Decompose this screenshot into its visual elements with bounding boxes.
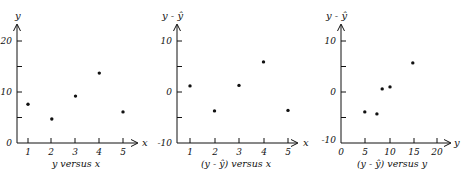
data-points	[363, 61, 414, 115]
data-point	[74, 94, 77, 97]
y-tick-label: 0	[166, 87, 172, 97]
y-axis	[14, 24, 23, 143]
data-point	[286, 109, 289, 112]
x-tick-label: 5	[362, 147, 368, 157]
figure-residual-plots: y x 20 10 0 1 2 3 4 5 y versus x	[0, 0, 465, 177]
y-tick-label: -10	[158, 138, 173, 148]
panel-residual-versus-x: y - ŷ x 10 0 -10 1 2 3 4 5 (y - ŷ) versu…	[158, 10, 310, 169]
y-tick-label: 10	[161, 36, 173, 46]
x-tick-label: 2	[47, 147, 54, 157]
y-tick-label: 0	[6, 138, 12, 148]
y-axis	[174, 24, 183, 143]
data-point	[411, 61, 414, 64]
x-tick-label: 0	[338, 147, 344, 157]
data-point	[262, 60, 265, 63]
y-tick-label: 20	[0, 36, 12, 46]
panel-caption: (y - ŷ) versus y	[357, 158, 428, 169]
data-point	[381, 87, 384, 90]
data-point	[188, 84, 191, 87]
panel-caption: y versus x	[51, 158, 101, 169]
x-tick-label: 5	[285, 147, 291, 157]
x-axis	[17, 138, 138, 147]
y-axis-label: y - ŷ	[161, 10, 183, 21]
data-points	[188, 60, 289, 112]
panel-residual-versus-y: y - ŷ y 10 0 -10 0 5 10 15 20 (y - ŷ) ve…	[322, 10, 461, 169]
data-point	[50, 117, 53, 120]
x-tick-label: 10	[384, 147, 396, 157]
panel-caption: (y - ŷ) versus x	[201, 158, 272, 169]
data-point	[98, 71, 101, 74]
y-axis-label: y - ŷ	[325, 10, 347, 21]
data-points	[26, 71, 124, 120]
y-tick-label: 10	[1, 87, 13, 97]
x-axis-label: x	[142, 137, 148, 148]
data-point	[26, 103, 29, 106]
y-tick-label: -10	[322, 135, 337, 145]
x-tick-label: 2	[211, 147, 218, 157]
y-axis	[338, 24, 347, 143]
x-axis-label: y	[453, 137, 460, 148]
y-tick-label: 0	[330, 87, 336, 97]
x-axis	[177, 138, 298, 147]
x-tick-label: 1	[25, 147, 31, 157]
y-tick-label: 10	[325, 36, 337, 46]
x-tick-label: 20	[430, 147, 443, 157]
x-tick-label: 1	[187, 147, 193, 157]
x-tick-label: 4	[260, 147, 267, 157]
x-tick-label: 15	[408, 147, 420, 157]
x-tick-label: 4	[95, 147, 102, 157]
data-point	[237, 84, 240, 87]
x-axis	[341, 138, 451, 147]
data-point	[213, 109, 216, 112]
data-point	[388, 85, 391, 88]
data-point	[375, 112, 378, 115]
x-axis-label: x	[303, 137, 309, 148]
data-point	[363, 110, 366, 113]
x-tick-label: 3	[236, 147, 242, 157]
panel-y-versus-x: y x 20 10 0 1 2 3 4 5 y versus x	[0, 10, 148, 169]
y-axis-label: y	[14, 10, 21, 21]
x-tick-label: 5	[120, 147, 126, 157]
x-tick-label: 3	[72, 147, 78, 157]
data-point	[121, 110, 124, 113]
